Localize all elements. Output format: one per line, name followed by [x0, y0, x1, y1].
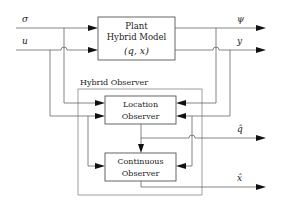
- psi-label: ψ: [237, 14, 245, 24]
- plant-block: Plant Hybrid Model (q, x): [98, 17, 175, 60]
- hybrid-observer-diagram: Plant Hybrid Model (q, x) Hybrid Observe…: [0, 0, 282, 205]
- y-label: y: [236, 36, 243, 46]
- continuous-observer-label-2: Observer: [122, 169, 160, 178]
- sigma-label: σ: [22, 14, 29, 24]
- location-observer-label-1: Location: [123, 100, 158, 109]
- location-observer-block: Location Observer: [105, 96, 176, 124]
- u-label: u: [22, 36, 28, 46]
- plant-label-2: Hybrid Model: [107, 32, 167, 42]
- plant-label-3: (q, x): [124, 45, 149, 56]
- continuous-observer-block: Continuous Observer: [105, 153, 176, 181]
- location-observer-label-2: Observer: [122, 112, 160, 121]
- x-hat-label: x̂: [237, 173, 242, 183]
- hybrid-observer-label: Hybrid Observer: [80, 78, 148, 87]
- plant-label-1: Plant: [125, 21, 148, 31]
- continuous-observer-label-1: Continuous: [117, 157, 163, 166]
- q-hat-label: q̂: [237, 124, 243, 134]
